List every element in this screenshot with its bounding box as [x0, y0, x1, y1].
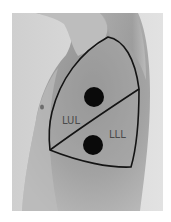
lll-label: LLL	[109, 129, 126, 140]
upper-lobe-point-marker	[84, 87, 104, 107]
nipple-mark	[40, 105, 44, 110]
lung-lobe-figure: LUL LLL	[0, 0, 171, 222]
lower-lobe-point-marker	[83, 135, 103, 155]
lul-label: LUL	[62, 115, 80, 126]
torso-illustration: LUL LLL	[0, 0, 171, 222]
